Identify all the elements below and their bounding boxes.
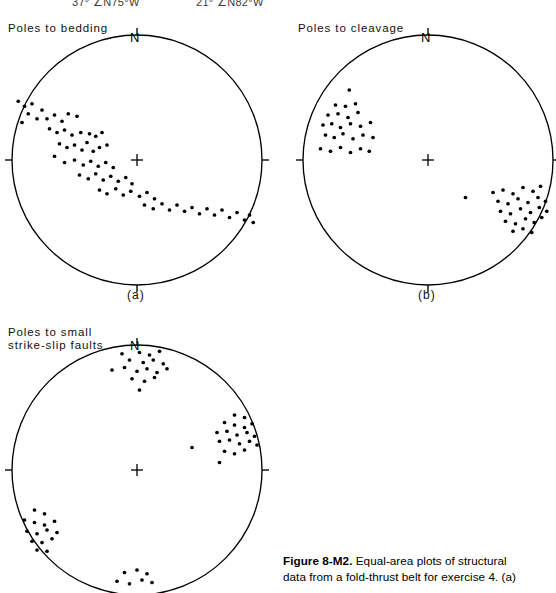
data-point — [114, 187, 118, 191]
data-point — [545, 209, 549, 213]
data-point — [121, 193, 125, 197]
data-point — [253, 434, 257, 438]
data-point — [145, 572, 149, 576]
data-point — [539, 184, 543, 188]
data-point — [346, 116, 350, 120]
data-point — [105, 143, 109, 147]
data-point — [243, 448, 247, 452]
data-point — [98, 188, 102, 192]
data-point — [359, 124, 363, 128]
data-point — [235, 433, 239, 437]
data-point — [356, 111, 360, 115]
data-point — [73, 158, 77, 162]
data-point — [140, 578, 144, 582]
data-point — [53, 154, 57, 158]
data-point — [123, 571, 127, 575]
data-point — [89, 159, 93, 163]
data-point — [175, 203, 179, 207]
data-point — [33, 508, 37, 512]
data-point — [30, 102, 34, 106]
data-point — [464, 196, 468, 200]
data-point — [148, 353, 152, 357]
data-point — [248, 213, 252, 217]
data-point — [43, 512, 47, 516]
data-point — [161, 362, 165, 366]
data-point — [371, 136, 375, 140]
panel-c-stereonet[interactable] — [0, 312, 280, 593]
data-point — [45, 117, 49, 121]
data-point — [65, 146, 69, 150]
data-point — [26, 112, 30, 116]
data-point — [233, 423, 237, 427]
data-point — [344, 104, 348, 108]
data-point — [326, 113, 330, 117]
data-point — [155, 371, 159, 375]
data-point — [529, 211, 533, 215]
data-point — [213, 213, 217, 217]
data-point — [255, 443, 259, 447]
data-point — [336, 112, 340, 116]
data-point — [129, 189, 133, 193]
figure-caption-line1: Equal-area plots of structural — [352, 554, 506, 567]
data-point — [145, 191, 149, 195]
data-point — [143, 203, 147, 207]
data-point — [540, 216, 544, 220]
data-point — [165, 367, 169, 371]
stereonet-panel-c: Poles to small strike-slip faults N — [0, 312, 280, 593]
data-point — [96, 164, 100, 168]
data-point — [511, 229, 515, 233]
data-point — [334, 103, 338, 107]
data-point — [73, 143, 77, 147]
data-point — [63, 128, 67, 132]
data-point — [58, 142, 62, 146]
data-point — [341, 132, 345, 136]
data-point — [66, 112, 70, 116]
data-point — [128, 358, 132, 362]
data-point — [43, 523, 47, 527]
data-point — [321, 123, 325, 127]
data-point — [250, 422, 254, 426]
data-point — [367, 149, 371, 153]
data-point — [109, 174, 113, 178]
data-point — [130, 377, 134, 381]
data-point — [151, 207, 155, 211]
data-point — [233, 452, 237, 456]
figure-caption-line2: data from a fold-thrust belt for exercis… — [283, 570, 516, 583]
data-point — [354, 102, 358, 106]
data-point — [115, 579, 119, 583]
data-point — [235, 211, 239, 215]
data-point — [248, 439, 252, 443]
data-point — [243, 218, 247, 222]
figure-caption: Figure 8-M2. Equal-area plots of structu… — [283, 553, 556, 584]
data-point — [530, 231, 534, 235]
data-point — [45, 528, 49, 532]
data-point — [544, 199, 548, 203]
data-point — [347, 88, 351, 92]
data-point — [70, 133, 74, 137]
data-point — [143, 379, 147, 383]
data-point — [153, 197, 157, 201]
data-point — [98, 146, 102, 150]
data-point — [324, 133, 328, 137]
data-point — [135, 568, 139, 572]
data-point — [509, 212, 513, 216]
data-point — [33, 521, 37, 525]
data-point — [243, 416, 247, 420]
data-point — [514, 222, 518, 226]
data-point — [501, 188, 505, 192]
data-point — [339, 146, 343, 150]
panel-b-stereonet[interactable] — [280, 0, 556, 300]
panel-a-stereonet[interactable] — [0, 0, 280, 300]
data-point — [499, 209, 503, 213]
data-point — [496, 199, 500, 203]
data-point — [319, 147, 323, 151]
data-point — [205, 207, 209, 211]
data-point — [329, 149, 333, 153]
data-point — [124, 176, 128, 180]
data-point — [220, 208, 224, 212]
data-point — [521, 227, 525, 231]
data-point — [531, 189, 535, 193]
data-point — [536, 196, 540, 200]
data-point — [190, 206, 194, 210]
data-point — [35, 548, 39, 552]
